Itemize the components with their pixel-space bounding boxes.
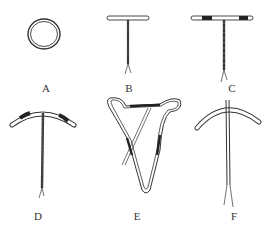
frame-device-e xyxy=(107,98,180,193)
t-device-b xyxy=(107,16,149,74)
ring-device-a xyxy=(28,19,60,49)
curved-t-device-d xyxy=(12,113,74,198)
iud-types-figure: A B C D E F xyxy=(0,0,267,236)
label-d: D xyxy=(34,211,42,222)
t-device-c xyxy=(191,16,253,82)
iud-drawings xyxy=(0,0,267,236)
label-f: F xyxy=(231,211,237,222)
label-a: A xyxy=(42,83,50,94)
label-e: E xyxy=(134,211,141,222)
arch-device-f xyxy=(197,100,259,207)
label-c: C xyxy=(228,83,235,94)
label-b: B xyxy=(125,83,132,94)
